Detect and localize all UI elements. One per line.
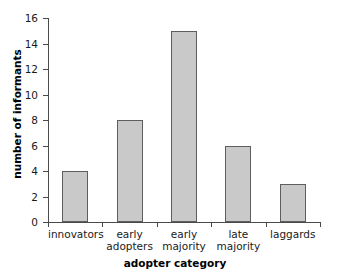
bar-innovators bbox=[62, 171, 88, 222]
x-tick-3 bbox=[211, 222, 212, 227]
y-tick-label-8: 8 bbox=[31, 115, 38, 126]
bar-laggards bbox=[280, 184, 306, 222]
x-tick-4 bbox=[266, 222, 267, 227]
x-axis-title: adopter category bbox=[0, 257, 350, 269]
x-label-laggards: laggards bbox=[266, 228, 320, 240]
x-tick-2 bbox=[157, 222, 158, 227]
x-tick-5 bbox=[320, 222, 321, 227]
plot-area bbox=[48, 18, 320, 222]
y-tick-label-16: 16 bbox=[25, 13, 38, 24]
y-tick-label-12: 12 bbox=[25, 64, 38, 75]
bar-early-majority bbox=[171, 31, 197, 222]
y-tick-label-14: 14 bbox=[25, 39, 38, 50]
x-tick-1 bbox=[102, 222, 103, 227]
y-tick-label-2: 2 bbox=[31, 192, 38, 203]
x-axis-line bbox=[48, 222, 321, 223]
x-label-early-adopters: early adopters bbox=[102, 228, 156, 252]
y-axis-title: number of informants bbox=[11, 34, 23, 194]
bar-late-majority bbox=[225, 146, 251, 223]
y-tick-label-6: 6 bbox=[31, 141, 38, 152]
y-tick-label-0: 0 bbox=[31, 217, 38, 228]
y-tick-label-10: 10 bbox=[25, 90, 38, 101]
x-label-innovators: innovators bbox=[48, 228, 102, 240]
x-label-late-majority: late majority bbox=[211, 228, 265, 252]
x-label-early-majority: early majority bbox=[157, 228, 211, 252]
x-tick-0 bbox=[48, 222, 49, 227]
bar-early-adopters bbox=[117, 120, 143, 222]
y-tick-label-4: 4 bbox=[31, 166, 38, 177]
bar-chart-figure: number of informants adopter category 02… bbox=[0, 0, 350, 276]
